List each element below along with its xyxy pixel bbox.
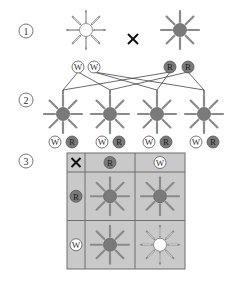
punnett-cell-flower-2-2 — [141, 226, 179, 264]
flower-center-red — [104, 238, 117, 251]
petal-ray — [144, 101, 152, 109]
parent-white-flower — [67, 11, 105, 49]
allele-label: R — [73, 192, 79, 202]
allele-label: W — [156, 158, 165, 168]
step-label: 3 — [24, 156, 29, 167]
flower-center-red — [154, 190, 167, 203]
offspring-allele-W: W — [96, 136, 108, 148]
petal-ray — [116, 120, 124, 128]
offspring-allele-W: W — [49, 136, 61, 148]
offspring-allele-R: R — [113, 136, 125, 148]
petal-ray-highlight — [74, 36, 80, 42]
petal-ray-highlight — [92, 36, 98, 42]
allele-label: R — [185, 62, 191, 72]
petal-ray — [163, 120, 171, 128]
punnett-row-header-R: R — [70, 190, 82, 202]
petal-ray — [97, 101, 105, 109]
punnett-square: RWRW — [67, 153, 185, 269]
offspring-flower-4 — [185, 95, 223, 133]
parent-allele-W: W — [72, 61, 84, 73]
allele-label: R — [163, 137, 169, 147]
petal-ray — [210, 120, 218, 128]
allele-label: W — [51, 137, 60, 147]
offspring-allele-R: R — [66, 136, 78, 148]
offspring-allele-R: R — [160, 136, 172, 148]
offspring-flower-1 — [44, 95, 82, 133]
allele-label: W — [74, 62, 83, 72]
allele-label: W — [90, 62, 99, 72]
petal-ray — [163, 101, 171, 109]
petal-ray — [50, 101, 58, 109]
allele-label: W — [145, 137, 154, 147]
allele-label: W — [72, 240, 81, 250]
cross-icon — [128, 34, 138, 44]
punnett-cell-flower-1-2 — [141, 177, 179, 215]
petal-ray — [69, 101, 77, 109]
flower-center-white — [154, 238, 167, 251]
punnett-col-header-W: W — [154, 157, 166, 169]
flower-center-red — [104, 190, 117, 203]
allele-label: R — [116, 137, 122, 147]
offspring-flower-3 — [138, 95, 176, 133]
offspring-flower-2 — [91, 95, 129, 133]
parent-allele-R: R — [182, 61, 194, 73]
step-number-1: 1 — [19, 24, 33, 38]
allele-label: R — [210, 137, 216, 147]
step-number-2: 2 — [19, 93, 33, 107]
petal-ray — [50, 120, 58, 128]
petal-ray — [167, 36, 175, 44]
parent-allele-R: R — [164, 61, 176, 73]
petal-ray — [186, 17, 194, 25]
punnett-cell-flower-1-1 — [91, 177, 129, 215]
flower-center-white — [80, 24, 93, 37]
punnett-row-header-W: W — [70, 239, 82, 251]
petal-ray — [186, 36, 194, 44]
petal-ray — [191, 101, 199, 109]
petal-ray — [69, 120, 77, 128]
inheritance-line — [188, 72, 204, 94]
petal-ray-highlight — [74, 18, 80, 24]
punnett-cell-flower-2-1 — [91, 226, 129, 264]
flower-center-red — [104, 108, 117, 121]
offspring-allele-W: W — [190, 136, 202, 148]
allele-label: R — [107, 158, 113, 168]
parent-allele-W: W — [88, 61, 100, 73]
parent-red-flower — [161, 11, 199, 49]
allele-label: R — [69, 137, 75, 147]
inheritance-lines — [63, 72, 204, 94]
petal-ray — [191, 120, 199, 128]
step-number-3: 3 — [19, 154, 33, 168]
petal-ray — [144, 120, 152, 128]
offspring-allele-R: R — [207, 136, 219, 148]
flower-center-red — [151, 108, 164, 121]
flower-center-red — [57, 108, 70, 121]
allele-label: W — [98, 137, 107, 147]
flower-center-red — [198, 108, 211, 121]
genetics-cross-diagram: 123WWRRWRWRWRWRRWRW — [0, 0, 241, 283]
allele-label: R — [167, 62, 173, 72]
offspring-allele-W: W — [143, 136, 155, 148]
petal-ray — [210, 101, 218, 109]
allele-label: W — [192, 137, 201, 147]
petal-ray — [97, 120, 105, 128]
petal-ray-highlight — [92, 18, 98, 24]
petal-ray — [116, 101, 124, 109]
punnett-col-header-R: R — [104, 157, 116, 169]
flower-center-red — [174, 24, 187, 37]
inheritance-line — [63, 72, 78, 94]
step-label: 2 — [24, 95, 29, 106]
step-label: 1 — [24, 26, 29, 37]
petal-ray — [167, 17, 175, 25]
